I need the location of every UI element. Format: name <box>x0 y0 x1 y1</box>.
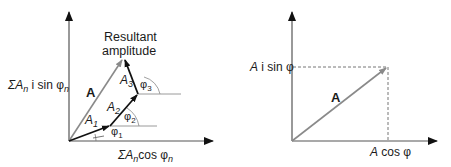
right-y-projection-label: A i sin φ <box>249 60 294 74</box>
phasor-diagrams: Resultant amplitude ΣAn i sin φn ΣAncos … <box>0 0 451 167</box>
angle-label-phi3: φ3 <box>140 78 152 93</box>
left-y-axis-label: ΣAn i sin φn <box>7 78 69 94</box>
left-x-axis-label: ΣAncos φn <box>117 148 173 164</box>
phi1-pointer <box>93 136 104 138</box>
vector-label-A1: A1 <box>84 113 98 129</box>
right-x-projection-label: A cos φ <box>369 145 411 159</box>
vector-A1 <box>69 126 109 141</box>
resultant-label-A: A <box>86 85 96 100</box>
resultant-title-line2: amplitude <box>102 44 156 58</box>
left-phasor-sum-diagram: Resultant amplitude ΣAn i sin φn ΣAncos … <box>7 12 213 164</box>
vector-label-A2: A2 <box>106 100 120 116</box>
right-projection-diagram: A i sin φ A cos φ A <box>249 12 437 159</box>
angle-label-phi2: φ2 <box>124 110 136 125</box>
angle-label-phi1: φ1 <box>111 125 123 140</box>
resultant-title-line1: Resultant <box>104 30 157 44</box>
right-vector-label-A: A <box>331 90 341 105</box>
